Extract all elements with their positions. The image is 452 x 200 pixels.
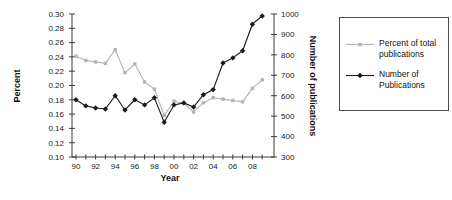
data-point [261,78,264,81]
y-right-tick-label: 700 [281,71,295,80]
data-point [251,87,254,90]
series-line [76,50,262,116]
x-tick-label: 96 [130,162,139,171]
data-point [123,71,126,74]
y-left-tick-label: 0.14 [48,124,64,133]
data-point [220,60,225,65]
y-axis-right-title: Number of publications [308,36,318,137]
data-point [212,96,215,99]
y-left-tick-label: 0.26 [48,38,64,47]
legend-label-number: Number of Publications [379,69,445,91]
legend: Percent of total publications Number of … [339,17,449,111]
data-point [162,120,167,125]
data-point [104,62,107,65]
data-point [73,97,78,102]
series-line [76,16,262,122]
data-point [84,59,87,62]
y-right-tick-label: 500 [281,112,295,121]
y-left-tick-label: 0.24 [48,53,64,62]
x-tick-label: 08 [248,162,257,171]
x-tick-label: 98 [150,162,159,171]
x-tick-label: 92 [91,162,100,171]
series-percent [74,48,264,117]
y-right-tick-label: 900 [281,30,295,39]
series-group [73,13,265,125]
data-point [241,100,244,103]
x-tick-label: 02 [189,162,198,171]
y-right-tick-label: 300 [281,153,295,162]
publication-trend-figure: 0.300.280.260.240.220.200.180.160.140.12… [0,0,452,200]
data-point [93,105,98,110]
y-left-tick-label: 0.10 [48,153,64,162]
y-left-tick-label: 0.28 [48,24,64,33]
y-right-tick-label: 400 [281,132,295,141]
data-point [143,80,146,83]
data-point [153,87,156,90]
data-point [114,48,117,51]
data-point [202,101,205,104]
y-left-tick-label: 0.18 [48,96,64,105]
y-left-tick-label: 0.30 [48,10,64,19]
data-point [192,110,195,113]
data-point [231,99,234,102]
legend-label-percent: Percent of total publications [379,38,445,60]
y-axis-left-title: Percent [12,69,22,102]
y-left-tick-label: 0.12 [48,139,64,148]
x-axis-title: Year [160,173,180,183]
y-left-tick-label: 0.16 [48,110,64,119]
data-point [221,97,224,100]
x-tick-label: 00 [170,162,179,171]
data-point [163,114,166,117]
y-right-tick-label: 800 [281,51,295,60]
ticks-group: 0.300.280.260.240.220.200.180.160.140.12… [48,10,299,171]
y-left-tick-label: 0.22 [48,67,64,76]
data-point [74,55,77,58]
x-tick-label: 04 [209,162,218,171]
y-right-tick-label: 1000 [281,10,299,19]
y-right-tick-label: 600 [281,92,295,101]
x-tick-label: 90 [72,162,81,171]
data-point [94,60,97,63]
legend-entry-number: Number of Publications [345,69,445,91]
x-tick-label: 06 [228,162,237,171]
percent-series-swatch-icon [345,40,375,49]
data-point [133,62,136,65]
data-point [83,103,88,108]
y-left-tick-label: 0.20 [48,81,64,90]
data-point [211,87,216,92]
legend-entry-percent: Percent of total publications [345,38,445,60]
axes-group [72,14,274,157]
x-tick-label: 94 [111,162,120,171]
number-series-swatch-icon [345,71,375,80]
